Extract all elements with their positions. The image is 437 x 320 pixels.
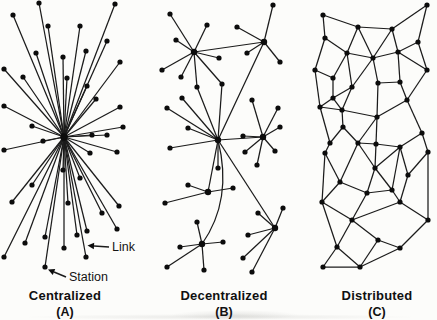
link-line <box>194 42 264 52</box>
link-line <box>208 188 233 192</box>
station-node <box>117 59 122 64</box>
station-node <box>244 50 249 55</box>
link-line <box>325 153 340 182</box>
link-line <box>400 175 408 202</box>
link-line <box>378 82 400 83</box>
station-node <box>36 0 41 5</box>
station-node <box>84 83 89 88</box>
link-arrow <box>88 243 109 249</box>
link-line <box>400 147 408 175</box>
link-line <box>347 53 352 87</box>
station-node <box>234 24 239 29</box>
station-node <box>201 267 206 272</box>
link-line <box>322 202 337 247</box>
station-node <box>219 81 224 86</box>
station-node <box>167 11 172 16</box>
station-node <box>104 132 109 137</box>
link-line <box>375 144 376 168</box>
arrow-shaft <box>94 246 109 247</box>
link-line <box>202 244 204 270</box>
network-decentralized <box>159 2 285 274</box>
station-node <box>319 199 324 204</box>
link-line <box>373 58 378 83</box>
station-node <box>334 244 339 249</box>
station-node <box>277 59 282 64</box>
hub-node <box>261 39 267 45</box>
link-line <box>322 153 325 202</box>
station-node <box>45 23 50 28</box>
station-node <box>424 67 429 72</box>
station-node <box>77 175 82 180</box>
station-node <box>425 149 430 154</box>
station-node <box>9 199 14 204</box>
station-node <box>114 226 119 231</box>
link-line <box>218 137 263 140</box>
station-node <box>355 140 360 145</box>
station-node <box>375 80 380 85</box>
link-line <box>63 57 64 137</box>
station-node <box>370 55 375 60</box>
station-node <box>397 79 402 84</box>
link-line <box>275 208 283 228</box>
hub-node <box>215 137 221 143</box>
station-node <box>355 24 360 29</box>
station-node <box>33 50 38 55</box>
station-node <box>317 104 322 109</box>
station-node <box>230 185 235 190</box>
link-line <box>64 4 115 137</box>
station-node <box>275 105 280 110</box>
link-line <box>252 100 263 137</box>
station-node <box>112 1 117 6</box>
link-line <box>194 52 197 87</box>
link-line <box>367 168 375 193</box>
station-node <box>29 123 34 128</box>
link-line <box>375 168 392 190</box>
link-line <box>322 182 340 202</box>
caption-distributed: Distributed (C) <box>342 288 413 319</box>
link-line <box>237 27 264 42</box>
link-line <box>264 42 280 62</box>
arrow-shaft <box>54 272 66 277</box>
link-line <box>347 53 373 58</box>
arrowhead-icon <box>88 243 95 249</box>
link-line <box>343 127 358 143</box>
station-node <box>397 245 402 250</box>
station-node <box>194 219 199 224</box>
link-line <box>315 70 333 78</box>
station-node <box>344 50 349 55</box>
link-line <box>408 152 428 175</box>
link-line <box>400 133 422 147</box>
link-line <box>377 100 407 117</box>
station-node <box>65 200 70 205</box>
hub-node <box>60 133 68 141</box>
station-node <box>64 75 69 80</box>
station-node <box>93 96 98 101</box>
station-node <box>372 165 377 170</box>
link-line <box>320 107 342 110</box>
station-node <box>61 245 66 250</box>
station-node <box>330 95 335 100</box>
station-node <box>178 74 183 79</box>
link-line <box>358 143 375 168</box>
link-line <box>167 244 202 267</box>
station-node <box>22 240 27 245</box>
caption-centralized: Centralized (A) <box>29 288 101 319</box>
link-line <box>194 25 207 52</box>
station-node <box>179 95 184 100</box>
station-node <box>330 75 335 80</box>
station-node <box>89 132 94 137</box>
link-line <box>352 220 378 240</box>
link-line <box>358 143 376 144</box>
station-node <box>405 172 410 177</box>
station-node <box>185 182 190 187</box>
station-node <box>204 22 209 27</box>
link-line <box>358 117 377 143</box>
station-node <box>215 165 220 170</box>
link-line <box>165 192 208 203</box>
station-node <box>374 114 379 119</box>
station-node <box>220 239 225 244</box>
link-line <box>400 202 428 220</box>
link-line <box>323 247 337 267</box>
link-line <box>358 27 373 58</box>
network-distributed <box>312 2 430 269</box>
